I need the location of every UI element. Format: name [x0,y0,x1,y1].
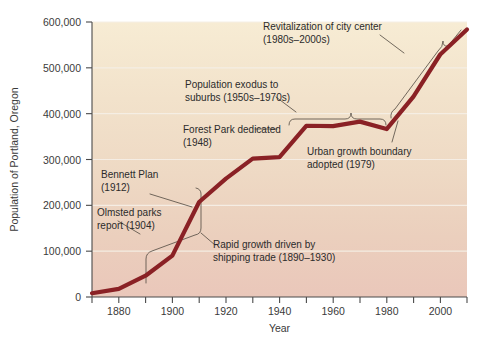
y-tick-label-200000: 200,000 [43,199,81,211]
x-tick-label-1980: 1980 [375,305,399,317]
population-chart: 600,000 500,000 400,000 300,000 200,000 … [0,0,482,343]
chart-svg: 600,000 500,000 400,000 300,000 200,000 … [0,0,482,343]
annotation-forest-park-line1: Forest Park dedicated [183,124,281,135]
annotation-rapid-growth-line2: shipping trade (1890–1930) [213,252,335,263]
annotation-bennett-plan-line2: (1912) [101,182,130,193]
x-tick-label-1940: 1940 [268,305,292,317]
y-tick-label-400000: 400,000 [43,108,81,120]
y-axis [86,22,92,297]
annotation-olmsted-line2: report (1904) [97,220,155,231]
x-tick-label-1960: 1960 [322,305,346,317]
y-axis-title: Population of Portland, Oregon [8,87,20,231]
y-tick-label-100000: 100,000 [43,245,81,257]
annotation-urban-growth-boundary-line2: adopted (1979) [307,159,375,170]
annotation-exodus-line2: suburbs (1950s–1970s) [185,92,290,103]
y-tick-label-600000: 600,000 [43,16,81,28]
x-axis [92,297,467,303]
annotation-bennett-plan-line1: Bennett Plan [101,169,158,180]
x-tick-label-2000: 2000 [429,305,453,317]
y-tick-label-0: 0 [75,291,81,303]
x-axis-title: Year [269,322,291,334]
annotation-forest-park-line2: (1948) [183,137,212,148]
annotation-revitalization-line2: (1980s–2000s) [263,34,330,45]
x-tick-label-1920: 1920 [214,305,238,317]
y-tick-label-300000: 300,000 [43,154,81,166]
y-tick-label-500000: 500,000 [43,62,81,74]
annotation-rapid-growth-line1: Rapid growth driven by [213,239,315,250]
annotation-olmsted-line1: Olmsted parks [97,207,161,218]
x-tick-label-1900: 1900 [161,305,185,317]
annotation-revitalization-line1: Revitalization of city center [263,21,383,32]
annotation-urban-growth-boundary-line1: Urban growth boundary [307,146,412,157]
x-tick-label-1880: 1880 [107,305,131,317]
annotation-exodus-line1: Population exodus to [185,79,279,90]
